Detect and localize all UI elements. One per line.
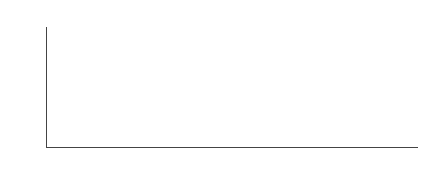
plot-area [46, 27, 418, 148]
y-axis [0, 0, 44, 183]
bar-group [47, 27, 418, 147]
x-axis [46, 150, 418, 170]
